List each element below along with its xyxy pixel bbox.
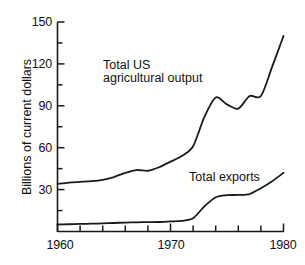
chart-container: Billions of current dollars 150 120 90 6… bbox=[0, 0, 305, 265]
x-axis-ticks bbox=[58, 224, 284, 232]
line-agricultural-output bbox=[58, 36, 284, 184]
y-axis-ticks bbox=[58, 22, 65, 211]
plot-area bbox=[0, 0, 305, 265]
axes bbox=[58, 22, 285, 232]
